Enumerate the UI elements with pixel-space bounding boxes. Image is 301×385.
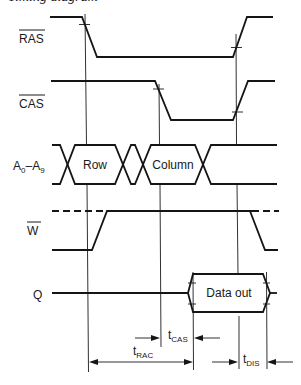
diagram-title: Timing diagram — [8, 0, 98, 4]
w-label: W — [27, 224, 39, 238]
q-label: Q — [33, 288, 42, 302]
arrow-right-icon — [229, 359, 238, 365]
timing-t-dis: tDIS — [212, 352, 293, 368]
cas-label: CAS — [19, 97, 44, 111]
row-address-field: Row — [83, 158, 107, 172]
ras-fall-ref-line — [85, 14, 87, 145]
data-valid-ref-line — [193, 272, 194, 370]
arrow-left-icon — [194, 335, 203, 341]
timing-diagram-canvas: Timing diagram RAS CAS A0–A9 Row — [0, 0, 301, 385]
w-rise-waveform — [52, 211, 259, 250]
signal-ras: RAS — [19, 17, 273, 57]
cas-fall-ref-line-lower — [160, 184, 161, 347]
timing-diagram: Timing diagram RAS CAS A0–A9 Row — [0, 0, 301, 385]
arrow-right-icon — [151, 335, 160, 341]
data-out-field: Data out — [206, 286, 252, 300]
signal-write-enable: W — [27, 211, 279, 250]
t-rac-label: tRAC — [133, 344, 153, 360]
arrow-left-icon — [89, 359, 98, 365]
cas-waveform — [51, 81, 275, 120]
ras-cas-rise-ref-line-mid — [237, 184, 238, 274]
t-cas-label: tCAS — [168, 328, 188, 344]
reference-lines — [85, 14, 267, 372]
ras-waveform — [50, 17, 273, 57]
ras-fall-ref-line-lower — [87, 184, 89, 372]
column-address-field: Column — [152, 158, 193, 172]
signal-address-bus: A0–A9 Row Column — [13, 145, 277, 184]
arrow-right-icon — [184, 359, 193, 365]
t-dis-label: tDIS — [243, 352, 260, 368]
arrow-left-icon — [267, 359, 276, 365]
ras-label: RAS — [19, 32, 44, 46]
timing-t-cas: tCAS — [135, 328, 220, 344]
signal-output: Q Data out — [33, 274, 277, 312]
w-fall-waveform — [250, 211, 278, 250]
timing-t-rac: tRAC — [89, 344, 193, 365]
address-label: A0–A9 — [13, 159, 45, 175]
